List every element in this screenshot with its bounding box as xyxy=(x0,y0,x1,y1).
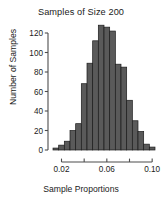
x-axis-tick-label: 0.02 xyxy=(54,165,70,174)
histogram-bar xyxy=(53,148,59,150)
histogram-bar xyxy=(70,131,76,151)
y-axis-tick-label: 120 xyxy=(29,29,43,38)
histogram-bar xyxy=(132,121,138,150)
histogram-bar xyxy=(76,124,82,150)
y-axis-tick-label: 60 xyxy=(34,88,44,97)
chart-canvas: 020406080100120 0.020.060.10 xyxy=(0,0,162,208)
y-axis: 020406080100120 xyxy=(29,29,48,155)
histogram-bar xyxy=(127,100,133,150)
histogram-bar xyxy=(93,41,99,150)
x-axis: 0.020.060.10 xyxy=(54,159,161,174)
histogram-bar xyxy=(115,64,121,150)
histogram-bar xyxy=(104,27,110,150)
histogram-bar xyxy=(138,131,144,150)
histogram-bar xyxy=(121,67,127,150)
y-axis-tick-label: 40 xyxy=(34,107,44,116)
histogram-bars xyxy=(53,25,155,150)
histogram-bar xyxy=(81,84,87,150)
histogram-bar xyxy=(144,144,150,150)
histogram-bar xyxy=(110,31,116,150)
y-axis-tick-label: 80 xyxy=(34,68,44,77)
histogram-bar xyxy=(64,141,70,150)
x-axis-tick-label: 0.10 xyxy=(144,165,160,174)
y-axis-tick-label: 0 xyxy=(38,146,43,155)
y-axis-tick-label: 20 xyxy=(34,127,44,136)
histogram-bar xyxy=(59,145,65,150)
histogram-bar xyxy=(98,25,104,150)
histogram-bar xyxy=(149,147,155,150)
y-axis-tick-label: 100 xyxy=(29,49,43,58)
x-axis-tick-label: 0.06 xyxy=(99,165,115,174)
histogram-figure: Samples of Size 200 Number of Samples Sa… xyxy=(0,0,162,208)
histogram-bar xyxy=(87,63,93,150)
